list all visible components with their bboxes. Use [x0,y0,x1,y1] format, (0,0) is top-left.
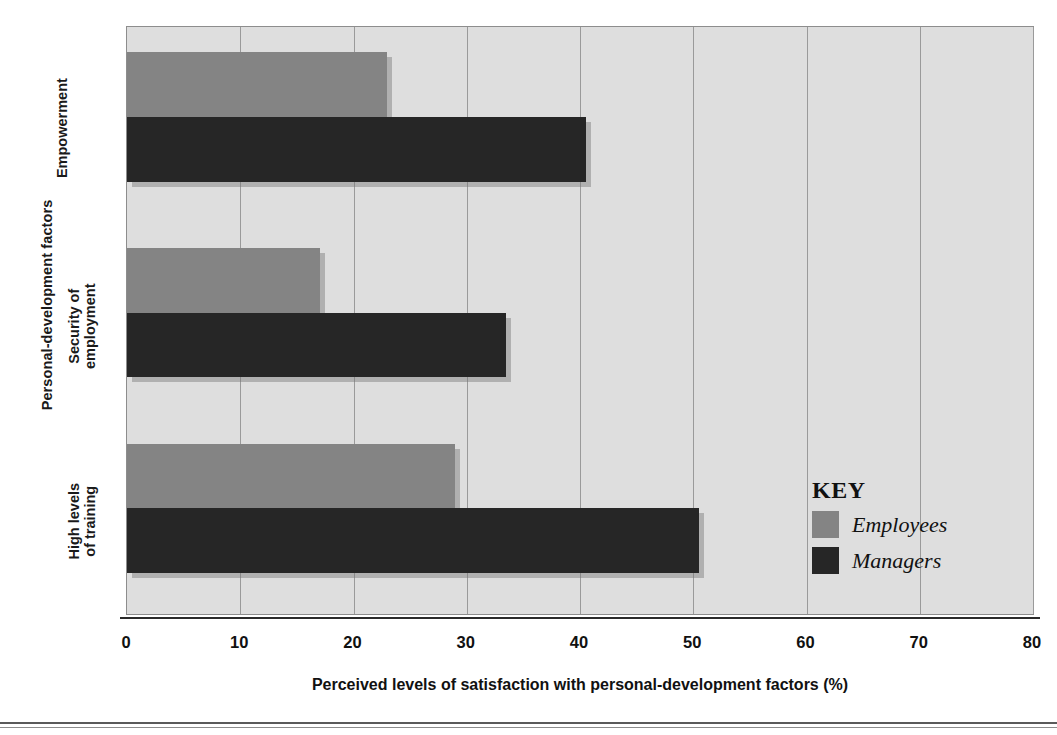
x-tick-label-40: 40 [549,633,609,652]
y-axis-category-label-security-of-employment: Security of employment [66,226,98,426]
legend-label-managers: Managers [852,548,941,574]
x-tick-label-70: 70 [889,633,949,652]
x-axis-title: Perceived levels of satisfaction with pe… [126,676,1034,694]
x-tick-label-30: 30 [436,633,496,652]
bar-chart-figure: Personal-development factors High levels… [0,0,1057,735]
y-axis-category-label-empowerment: Empowerment [54,28,70,228]
page-bottom-rule [0,722,1057,724]
gridline-x-80 [1033,27,1034,614]
legend: KEY Employees Managers [812,477,1002,583]
x-tick-label-50: 50 [662,633,722,652]
bar-managers-empowerment [127,117,586,182]
bar-employees-high-levels-of-training [127,444,455,509]
bar-managers-high-levels-of-training [127,508,699,573]
y-axis-title: Personal-development factors [39,175,55,435]
bar-group-empowerment [127,27,1033,223]
bar-group-security-of-employment [127,223,1033,419]
legend-entry-managers: Managers [812,547,1002,574]
x-tick-label-60: 60 [776,633,836,652]
bar-managers-security-of-employment [127,313,506,378]
legend-entry-employees: Employees [812,511,1002,538]
x-tick-label-0: 0 [96,633,156,652]
legend-swatch-employees [812,511,839,538]
x-tick-label-20: 20 [323,633,383,652]
bar-employees-security-of-employment [127,248,320,313]
legend-swatch-managers [812,547,839,574]
x-tick-label-10: 10 [209,633,269,652]
legend-title: KEY [812,477,1002,504]
x-axis-line [120,617,1040,619]
y-axis-category-label-high-levels-of-training: High levels of training [66,421,98,621]
legend-label-employees: Employees [852,512,947,538]
bar-employees-empowerment [127,52,387,117]
page-bottom-rule-secondary [0,727,1057,728]
x-tick-label-80: 80 [1002,633,1057,652]
